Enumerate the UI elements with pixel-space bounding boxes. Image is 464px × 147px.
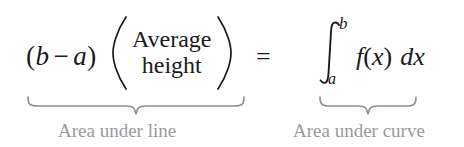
average-height-quantity: Average height — [110, 14, 234, 92]
integral-lower-limit: a — [328, 70, 336, 88]
integrand-close-paren: ) — [383, 42, 392, 71]
factor-open-paren: ( — [26, 41, 36, 71]
differential-dx: dx — [392, 42, 425, 71]
large-open-paren-icon — [110, 14, 130, 92]
math-equation-figure: (b−a) Average height = — [0, 0, 464, 147]
equals-sign: = — [256, 42, 271, 72]
factor-variable-a: a — [73, 41, 87, 71]
integrand-expression: f(x)dx — [356, 42, 425, 72]
factor-b-minus-a: (b−a) — [26, 41, 97, 72]
factor-variable-b: b — [36, 41, 50, 71]
integrand-variable: x — [372, 42, 384, 71]
integrand-open-paren: ( — [363, 42, 372, 71]
left-underbrace-icon — [26, 96, 246, 116]
equation-row: (b−a) Average height = — [0, 0, 464, 100]
left-brace-label: Area under line — [58, 120, 176, 142]
large-close-paren-icon — [214, 14, 234, 92]
height-label: height — [132, 53, 212, 79]
right-brace-label: Area under curve — [293, 120, 425, 142]
average-label: Average — [132, 27, 212, 53]
right-underbrace-icon — [318, 96, 418, 116]
average-height-text: Average height — [130, 27, 214, 79]
factor-close-paren: ) — [87, 41, 97, 71]
minus-sign: − — [50, 41, 74, 71]
integral-upper-limit: b — [339, 14, 348, 34]
